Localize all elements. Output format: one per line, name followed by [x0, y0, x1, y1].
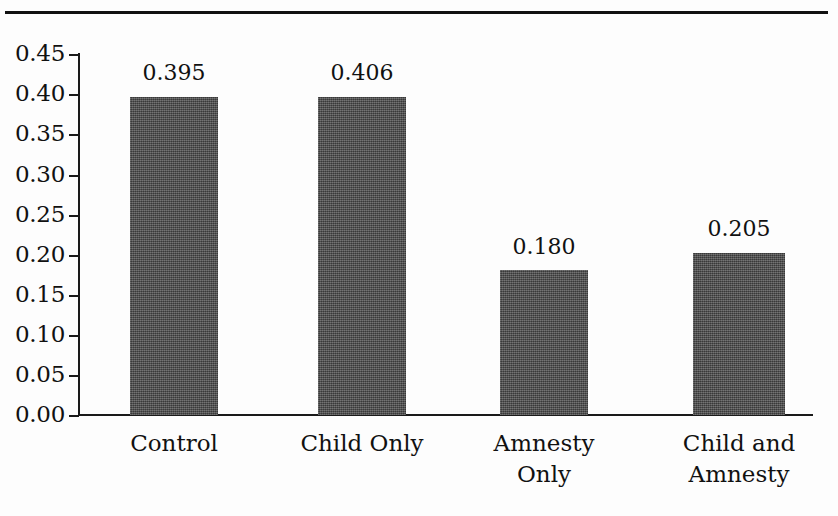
category-label-line: Control	[104, 428, 244, 459]
y-tick-label: 0.25	[0, 203, 79, 226]
y-tick-label: 0.35	[0, 122, 79, 145]
y-tick-row: 0.00	[0, 415, 79, 417]
value-label-child-and-amnesty: 0.205	[679, 218, 799, 240]
bar-control	[130, 97, 218, 415]
bar-chart-figure: 0.45 0.40 0.35 0.30 0.25 0.20 0.15 0.10	[0, 0, 838, 516]
category-label-line: Child Only	[292, 428, 432, 459]
category-label-amnesty-only: Amnesty Only	[474, 428, 614, 490]
value-label-control: 0.395	[114, 62, 234, 84]
y-tick-label: 0.15	[0, 283, 79, 306]
y-tick-label: 0.20	[0, 243, 79, 266]
bar-amnesty-only	[500, 270, 588, 415]
category-label-line: Amnesty	[669, 459, 809, 490]
category-label-line: Child and	[669, 428, 809, 459]
category-label-control: Control	[104, 428, 244, 459]
y-tick-row: 0.40	[0, 94, 79, 96]
y-tick-label: 0.40	[0, 82, 79, 105]
category-label-line: Only	[474, 459, 614, 490]
y-axis-line	[78, 53, 80, 416]
y-tick-row: 0.15	[0, 295, 79, 297]
y-tick-row: 0.10	[0, 335, 79, 337]
y-tick-label: 0.10	[0, 323, 79, 346]
y-tick-row: 0.25	[0, 215, 79, 217]
value-label-amnesty-only: 0.180	[484, 236, 604, 258]
y-tick-row: 0.45	[0, 54, 79, 56]
category-label-child-only: Child Only	[292, 428, 432, 459]
category-label-line: Amnesty	[474, 428, 614, 459]
plot-area: 0.45 0.40 0.35 0.30 0.25 0.20 0.15 0.10	[0, 0, 838, 516]
y-tick-row: 0.35	[0, 134, 79, 136]
bar-child-and-amnesty	[693, 253, 785, 415]
y-tick-label: 0.45	[0, 42, 79, 65]
y-tick-row: 0.30	[0, 175, 79, 177]
y-tick-row: 0.05	[0, 375, 79, 377]
y-tick-row: 0.20	[0, 255, 79, 257]
bar-child-only	[318, 97, 406, 415]
y-tick-label: 0.30	[0, 163, 79, 186]
value-label-child-only: 0.406	[302, 62, 422, 84]
category-label-child-and-amnesty: Child and Amnesty	[669, 428, 809, 490]
y-tick-label: 0.05	[0, 363, 79, 386]
y-tick-label: 0.00	[0, 403, 79, 426]
